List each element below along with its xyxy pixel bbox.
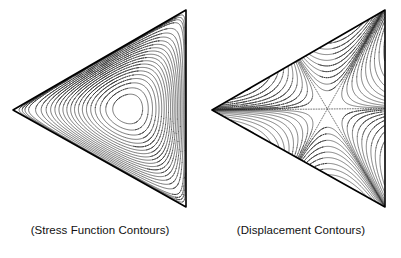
contour-line (103, 71, 110, 75)
contour-line (82, 90, 83, 91)
contour-line (138, 42, 141, 43)
contour-line (309, 54, 335, 60)
contour-line (115, 59, 121, 62)
contour-line (291, 98, 296, 101)
contour-line (333, 41, 338, 43)
contour-line (155, 153, 157, 154)
contour-line (338, 78, 339, 79)
contour-line (131, 71, 162, 147)
contour-line (68, 81, 69, 82)
contour-line (32, 103, 33, 104)
contour-line (151, 147, 152, 148)
contour-line (116, 65, 118, 66)
contour-line (318, 131, 319, 132)
contour-line (127, 53, 131, 55)
contour-line (353, 32, 354, 33)
contour-line (64, 94, 65, 95)
contour-line (67, 94, 68, 95)
contour-line (262, 88, 268, 92)
contour-line (112, 67, 114, 68)
contour-line (70, 90, 73, 92)
contour-line (356, 34, 357, 35)
contour-line (60, 94, 61, 95)
contour-line (244, 98, 248, 99)
captions-row: (Stress Function Contours) (Displacement… (0, 222, 401, 252)
contour-line (124, 59, 126, 60)
contour-line (163, 25, 166, 26)
contour-line (346, 57, 347, 58)
contour-line (247, 96, 254, 98)
contour-line (251, 104, 258, 105)
contour-line (352, 116, 354, 117)
contour-line (357, 117, 384, 203)
contour-line (124, 57, 127, 58)
contour-line (258, 102, 268, 104)
contour-line (100, 92, 101, 93)
contour-line (141, 49, 149, 51)
contour-line (55, 95, 56, 96)
contour-line (118, 63, 122, 65)
contour-line (340, 71, 341, 72)
contour-line (339, 53, 346, 57)
contour-line (102, 76, 106, 78)
contour-line (333, 88, 335, 89)
contour-line (165, 171, 166, 172)
contour-line (149, 37, 151, 38)
contour-line (130, 44, 136, 47)
contour-line (280, 94, 285, 97)
contour-line (125, 49, 127, 50)
contour-line (121, 67, 124, 68)
contour-line (87, 89, 88, 90)
contour-line (285, 62, 302, 104)
contour-line (142, 133, 143, 134)
contour-line (113, 94, 143, 124)
contour-line (293, 104, 295, 105)
contour-line (142, 38, 144, 39)
contour-line (142, 40, 145, 41)
contour-line (374, 22, 384, 86)
contour-figure: (Stress Function Contours) (Displacement… (0, 0, 401, 258)
contour-line (369, 121, 373, 124)
contour-line (90, 90, 91, 91)
contour-line (78, 94, 79, 95)
contour-line (106, 93, 135, 130)
contour-line (155, 149, 156, 150)
contour-line (349, 54, 350, 55)
contour-line (357, 121, 358, 122)
contour-line (137, 47, 140, 48)
contour-line (344, 64, 345, 65)
contour-line (359, 27, 360, 28)
contour-line (359, 116, 365, 120)
contour-line (92, 76, 93, 77)
contour-line (108, 80, 113, 83)
contour-line (273, 90, 274, 91)
contour-line (117, 76, 120, 77)
contour-line (339, 23, 363, 41)
stress-function-plot (0, 0, 200, 220)
contour-line (157, 157, 159, 158)
contour-line (116, 60, 124, 64)
contour-line (380, 142, 384, 185)
contour-line (300, 106, 304, 107)
contour-line (120, 74, 126, 77)
contour-line (120, 65, 123, 66)
contour-line (106, 60, 109, 61)
contour-line (97, 81, 107, 88)
contour-line (339, 59, 344, 63)
contour-line (72, 80, 73, 81)
contour-line (48, 98, 49, 99)
contour-line (252, 99, 254, 100)
contour-line (240, 77, 270, 97)
contour-line (341, 45, 350, 51)
contour-line (281, 104, 285, 105)
contour-line (71, 94, 72, 95)
contour-line (312, 149, 318, 153)
contour-line (275, 102, 279, 103)
contour-line (147, 139, 150, 141)
contour-line (92, 91, 93, 92)
contour-line (112, 65, 114, 66)
contour-line (347, 51, 348, 52)
contour-line (372, 114, 384, 117)
contour-line (273, 92, 279, 96)
contour-line (160, 160, 161, 161)
